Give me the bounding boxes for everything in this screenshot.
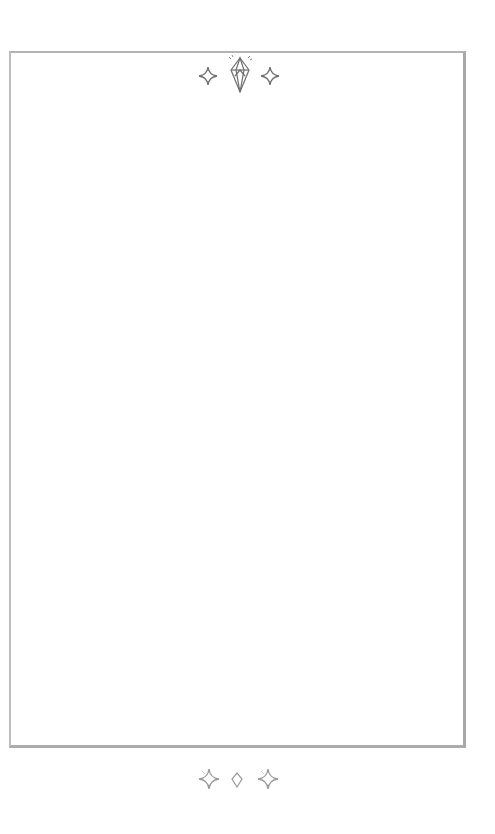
sparkle-icon — [198, 66, 218, 86]
sparkle-icon — [257, 768, 279, 790]
sparkle-icon — [260, 66, 280, 86]
sparkle-icon — [198, 768, 220, 790]
blank-page-frame — [9, 51, 466, 748]
crystal-gem-icon — [226, 54, 254, 94]
small-diamond-icon — [231, 772, 243, 788]
bottom-ornament — [196, 766, 286, 794]
top-ornament — [196, 54, 286, 96]
